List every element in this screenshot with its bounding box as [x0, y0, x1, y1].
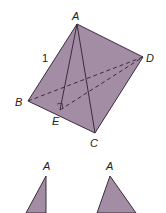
tetrahedron-diagram: A D B E C 1 A A [0, 0, 166, 213]
vertex-label-b: B [15, 96, 22, 108]
edge-length-label: 1 [42, 52, 48, 64]
subfigure-2-triangle [97, 176, 136, 213]
vertex-label-d: D [146, 52, 154, 64]
subfigure-1-label: A [42, 160, 50, 172]
vertex-label-e: E [52, 115, 60, 127]
subfigure-2-label: A [105, 160, 113, 172]
vertex-label-a: A [71, 10, 79, 22]
vertex-label-c: C [90, 137, 98, 149]
subfigure-1-triangle [26, 176, 46, 213]
